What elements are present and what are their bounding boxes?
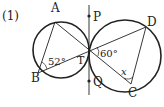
angle-label-b: 52° [48, 56, 66, 67]
angle-arc-b [42, 62, 47, 69]
segment-dc [131, 27, 146, 84]
label-d: D [147, 15, 157, 29]
angle-label-t: 60° [100, 48, 118, 59]
point-p-dot [87, 14, 90, 17]
label-c: C [128, 86, 137, 100]
angle-label-c: x [121, 66, 127, 77]
label-t: T [77, 54, 85, 67]
angle-arc-c [124, 77, 133, 79]
label-p: P [93, 10, 101, 24]
left-circle [33, 22, 89, 78]
geometry-diagram: (1) A B T P Q D C 52° 60° x [0, 0, 164, 107]
label-b: B [31, 71, 40, 85]
label-a: A [50, 1, 60, 15]
point-q-dot [87, 79, 90, 82]
problem-number: (1) [2, 9, 19, 23]
label-q: Q [93, 75, 103, 89]
angle-arc-t [97, 47, 99, 56]
